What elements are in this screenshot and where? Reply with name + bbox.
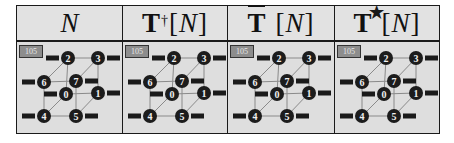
header-n: N bbox=[17, 6, 123, 42]
cube-node: 5 bbox=[175, 109, 189, 123]
svg-text:3: 3 bbox=[202, 53, 207, 64]
svg-text:2: 2 bbox=[66, 53, 71, 64]
dagger-icon: † bbox=[161, 13, 168, 29]
svg-text:6: 6 bbox=[360, 77, 365, 88]
node-label-bar bbox=[257, 56, 270, 61]
node-label-bar bbox=[107, 91, 120, 96]
cube-graph: 01234567 bbox=[123, 42, 228, 134]
node-label-bar bbox=[213, 91, 226, 96]
overbar-icon bbox=[248, 5, 264, 7]
cube-node: 1 bbox=[409, 86, 423, 100]
svg-text:1: 1 bbox=[414, 88, 419, 99]
svg-text:2: 2 bbox=[277, 53, 282, 64]
node-label-bar bbox=[364, 56, 377, 61]
svg-text:6: 6 bbox=[253, 77, 258, 88]
header-t-star-var: N bbox=[392, 8, 410, 39]
node-label-bar bbox=[318, 91, 331, 96]
node-label-bar bbox=[107, 56, 120, 61]
svg-text:5: 5 bbox=[180, 111, 185, 122]
svg-text:4: 4 bbox=[42, 111, 47, 122]
cube-node: 4 bbox=[355, 109, 369, 123]
cube-cell-t-star: 10501234567 bbox=[335, 42, 439, 133]
cube-node: 2 bbox=[167, 51, 181, 65]
bracket-open: [ bbox=[276, 8, 285, 39]
cube-node: 1 bbox=[197, 86, 211, 100]
svg-text:4: 4 bbox=[148, 111, 153, 122]
svg-text:2: 2 bbox=[384, 53, 389, 64]
node-label-bar bbox=[128, 114, 141, 119]
cube-node: 1 bbox=[91, 86, 105, 100]
svg-text:5: 5 bbox=[285, 111, 290, 122]
cube-node: 4 bbox=[37, 109, 51, 123]
svg-text:7: 7 bbox=[74, 76, 79, 87]
header-t-bar-var: N bbox=[286, 8, 304, 39]
node-label-bar bbox=[22, 80, 35, 85]
node-label-bar bbox=[152, 56, 165, 61]
node-label-bar bbox=[340, 80, 353, 85]
cube-node: 4 bbox=[248, 109, 262, 123]
header-t-star-op: T★ bbox=[353, 8, 371, 39]
node-label-bar bbox=[46, 56, 59, 61]
cube-node: 0 bbox=[377, 87, 391, 101]
cube-node: 4 bbox=[143, 109, 157, 123]
svg-text:3: 3 bbox=[307, 53, 312, 64]
cube-node: 3 bbox=[302, 51, 316, 65]
cube-node: 1 bbox=[302, 86, 316, 100]
svg-text:7: 7 bbox=[392, 76, 397, 87]
svg-text:3: 3 bbox=[96, 53, 101, 64]
cube-node: 3 bbox=[197, 51, 211, 65]
cube-node: 7 bbox=[69, 74, 83, 88]
cube-node: 0 bbox=[165, 87, 179, 101]
cube-node: 0 bbox=[59, 87, 73, 101]
svg-text:1: 1 bbox=[202, 88, 207, 99]
cube-graph: 01234567 bbox=[335, 42, 441, 134]
svg-text:2: 2 bbox=[172, 53, 177, 64]
cube-node: 7 bbox=[280, 74, 294, 88]
svg-text:1: 1 bbox=[96, 88, 101, 99]
svg-text:6: 6 bbox=[42, 77, 47, 88]
cube-node: 7 bbox=[387, 74, 401, 88]
node-label-bar bbox=[85, 79, 98, 84]
cube-cell-n: 10501234567 bbox=[17, 42, 123, 133]
node-label-bar bbox=[425, 91, 438, 96]
node-label-bar bbox=[233, 114, 246, 119]
star-icon: ★ bbox=[369, 2, 384, 23]
comparison-table: N T† [N] T [N] T★ [N] 10501234567 105012… bbox=[16, 5, 440, 134]
cube-node: 2 bbox=[272, 51, 286, 65]
svg-text:0: 0 bbox=[382, 89, 387, 100]
cube-cell-t-bar: 10501234567 bbox=[228, 42, 335, 133]
node-label-bar bbox=[191, 114, 204, 119]
header-t-bar-letter: T bbox=[247, 8, 265, 38]
cube-node: 6 bbox=[143, 75, 157, 89]
node-label-bar bbox=[85, 114, 98, 119]
svg-text:5: 5 bbox=[392, 111, 397, 122]
cube-node: 2 bbox=[61, 51, 75, 65]
cube-node: 6 bbox=[355, 75, 369, 89]
bracket-close: ] bbox=[198, 8, 207, 39]
cube-node: 5 bbox=[387, 109, 401, 123]
cube-node: 3 bbox=[409, 51, 423, 65]
node-label-bar bbox=[362, 92, 375, 97]
header-t-dagger: T† [N] bbox=[123, 6, 228, 42]
svg-text:3: 3 bbox=[414, 53, 419, 64]
node-label-bar bbox=[255, 92, 268, 97]
svg-text:6: 6 bbox=[148, 77, 153, 88]
cube-node: 6 bbox=[37, 75, 51, 89]
header-t-dagger-op: T bbox=[142, 8, 160, 39]
node-label-bar bbox=[318, 56, 331, 61]
node-label-bar bbox=[213, 56, 226, 61]
bracket-close: ] bbox=[305, 8, 314, 39]
bracket-close: ] bbox=[411, 8, 420, 39]
header-t-star: T★ [N] bbox=[335, 6, 439, 42]
node-label-bar bbox=[296, 114, 309, 119]
svg-text:0: 0 bbox=[275, 89, 280, 100]
node-label-bar bbox=[128, 80, 141, 85]
cube-node: 5 bbox=[280, 109, 294, 123]
node-label-bar bbox=[233, 80, 246, 85]
svg-text:5: 5 bbox=[74, 111, 79, 122]
node-label-bar bbox=[403, 79, 416, 84]
node-label-bar bbox=[191, 79, 204, 84]
svg-text:7: 7 bbox=[285, 76, 290, 87]
cube-node: 6 bbox=[248, 75, 262, 89]
cube-node: 0 bbox=[270, 87, 284, 101]
